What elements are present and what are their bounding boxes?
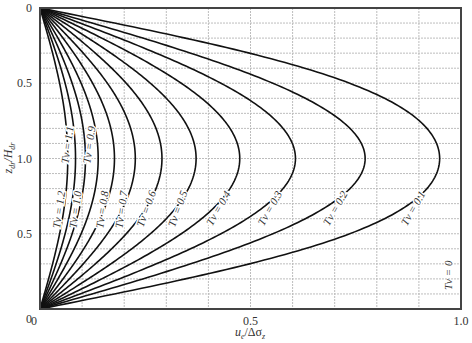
x-axis-label: ue/Δσz (235, 325, 266, 341)
tv-zero-label: Tv = 0 (442, 260, 454, 290)
y-axis-label: zdr/Hdr (1, 142, 17, 175)
x-tick-label: 1.0 (454, 314, 469, 328)
y-tick-label: 1.0 (17, 152, 32, 166)
isochrone-labels: Tv = 0.1Tv = 0.2Tv = 0.3Tv = 0.4Tv = 0.5… (50, 125, 427, 229)
y-tick-label: 0.5 (17, 76, 32, 90)
isochrone-label: Tv = 1.0 (66, 190, 83, 229)
isochrone-label: Tv = 0.5 (165, 189, 189, 229)
y-tick-label: 0 (26, 312, 32, 326)
y-tick-label: 0 (26, 1, 32, 15)
isochrone-label: Tv = 0.8 (93, 190, 110, 229)
isochrone-label: Tv = 1.2 (50, 190, 67, 229)
isochrone-label: Tv = 0.3 (255, 188, 284, 227)
y-tick-label: 0.5 (17, 227, 32, 241)
isochrone-label: Tv = 0.7 (112, 190, 129, 229)
isochrone-label: Tv = 0.6 (134, 189, 158, 229)
consolidation-isochrones-chart: Tv = 0.1Tv = 0.2Tv = 0.3Tv = 0.4Tv = 0.5… (0, 0, 472, 343)
